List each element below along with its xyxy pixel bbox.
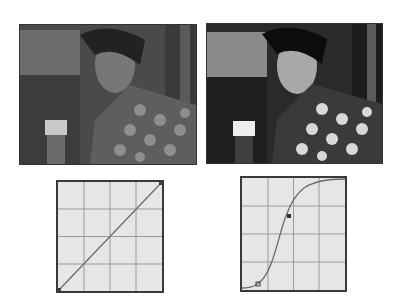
photo-before-image bbox=[20, 25, 196, 164]
photo-after-image bbox=[207, 24, 382, 163]
photo-after bbox=[206, 23, 383, 164]
endpoint-handle[interactable] bbox=[58, 288, 61, 291]
photo-before bbox=[19, 24, 197, 165]
control-point-highlights[interactable] bbox=[287, 214, 291, 218]
curve-linear bbox=[56, 180, 164, 293]
curve-s-graph bbox=[242, 178, 345, 290]
endpoint-handle[interactable] bbox=[159, 182, 162, 185]
curve-s bbox=[240, 176, 347, 292]
curve-linear-graph bbox=[58, 182, 162, 291]
